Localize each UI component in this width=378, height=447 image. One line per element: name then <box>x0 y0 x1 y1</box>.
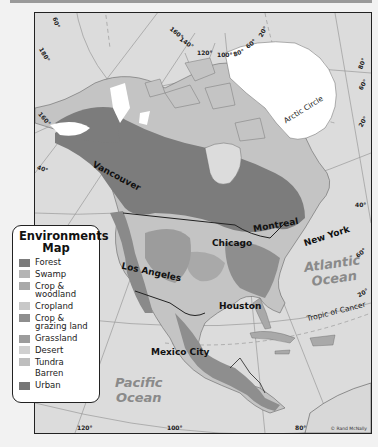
lat-label: 40° <box>355 201 366 208</box>
barren-swatch <box>19 370 30 378</box>
legend-item-barren: Barren <box>19 369 93 378</box>
ocean-label-pacific: Pacific Ocean <box>115 375 163 405</box>
legend-item-crop-woodland: Crop & woodland <box>19 282 93 299</box>
city-label-houston: Houston <box>219 301 261 311</box>
crop-woodland-swatch <box>19 282 30 290</box>
legend-item-tundra: Tundra <box>19 358 93 367</box>
copyright-credit: © Rand McNally <box>331 426 368 431</box>
urban-swatch <box>19 382 30 390</box>
forest-swatch <box>19 259 30 267</box>
desert-swatch <box>19 346 30 354</box>
legend-item-grassland: Grassland <box>19 334 93 343</box>
lon-label: 100° <box>217 51 233 58</box>
city-label-mexico-city: Mexico City <box>151 347 209 357</box>
legend-item-crop-grazing: Crop & grazing land <box>19 314 93 331</box>
grassland-swatch <box>19 335 30 343</box>
lon-label: 120° <box>197 49 213 56</box>
map-legend: Environments Map Forest Swamp Crop & woo… <box>12 225 100 403</box>
lon-label: 100° <box>167 424 183 431</box>
legend-item-desert: Desert <box>19 346 93 355</box>
legend-item-cropland: Cropland <box>19 302 93 311</box>
city-label-chicago: Chicago <box>212 238 252 248</box>
legend-item-urban: Urban <box>19 381 93 390</box>
tundra-swatch <box>19 358 30 366</box>
lon-label: 80° <box>295 424 306 431</box>
swamp-swatch <box>19 270 30 278</box>
crop-grazing-swatch <box>19 314 30 322</box>
legend-title: Environments Map <box>19 230 93 254</box>
cropland-swatch <box>19 302 30 310</box>
legend-item-swamp: Swamp <box>19 270 93 279</box>
legend-item-forest: Forest <box>19 258 93 267</box>
page-top-rule <box>10 0 372 3</box>
lon-label: 120° <box>77 424 93 431</box>
